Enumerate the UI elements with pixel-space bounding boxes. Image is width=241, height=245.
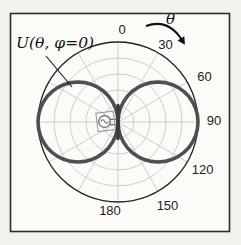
polar-radiation-chart: 0306090120150180 U(θ, φ=0) θ [0, 0, 241, 245]
angle-tick-label: 180 [99, 203, 121, 218]
figure-page: 0306090120150180 U(θ, φ=0) θ [0, 0, 241, 245]
angle-tick-label: 30 [158, 37, 172, 52]
angle-tick-label: 60 [197, 69, 211, 84]
angle-tick-label: 0 [118, 22, 125, 37]
angle-tick-label: 120 [192, 162, 214, 177]
angle-tick-label: 150 [157, 198, 179, 213]
theta-axis-label: θ [166, 10, 175, 28]
angle-tick-label: 90 [207, 113, 221, 128]
pattern-label: U(θ, φ=0) [16, 34, 94, 52]
